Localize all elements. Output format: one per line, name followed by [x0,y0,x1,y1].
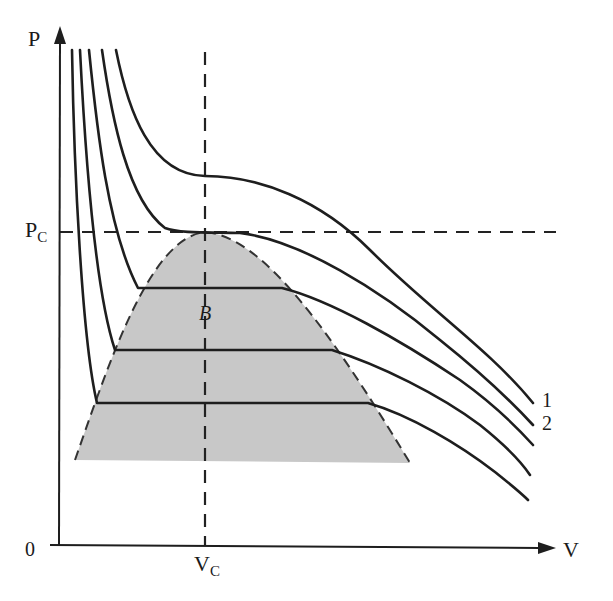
p-axis-arrow-icon [54,26,66,44]
critical-pressure-label: PC [25,217,47,245]
critical-volume-label: VC [194,551,220,579]
v-axis-label: V [563,537,579,562]
two-phase-dome [75,232,410,463]
pv-diagram: P V 0 PC VC B 1 2 [0,0,613,601]
v-axis [50,545,540,548]
p-axis [59,40,60,545]
origin-label: 0 [25,538,35,560]
v-axis-arrow-icon [538,542,556,554]
curve-1-label: 1 [542,389,552,411]
curve-2-label: 2 [542,412,552,434]
p-axis-label: P [28,26,40,51]
point-b-label: B [199,302,211,324]
